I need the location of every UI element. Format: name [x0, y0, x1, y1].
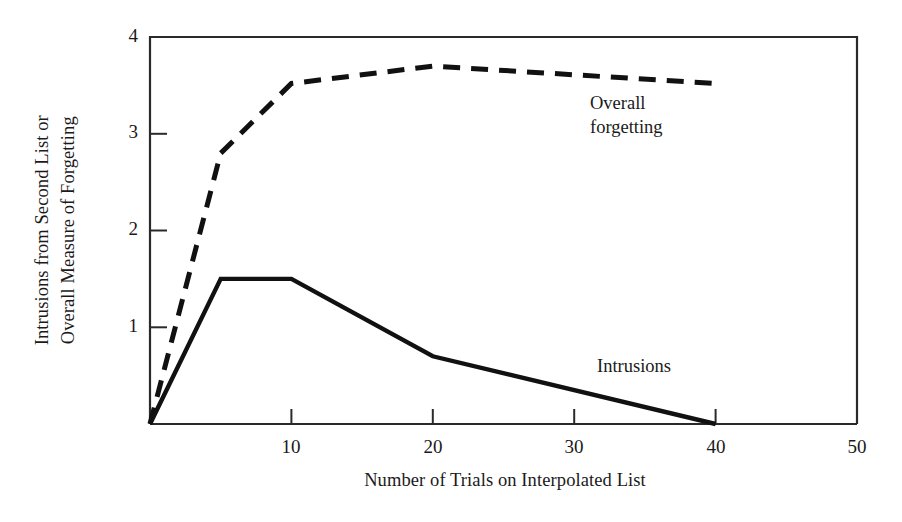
chart-figure: Intrusions from Second List or Overall M… [0, 0, 902, 522]
y-axis-ticks [150, 134, 167, 327]
x-axis-ticks [291, 409, 715, 424]
series-intrusions [150, 279, 716, 424]
y-tick-label-4: 4 [104, 25, 138, 47]
x-axis-title: Number of Trials on Interpolated List [150, 470, 860, 491]
x-tick-label-30: 30 [551, 436, 597, 458]
y-axis-title: Intrusions from Second List or Overall M… [0, 0, 110, 460]
x-tick-label-50: 50 [834, 436, 880, 458]
annotation-overall-forgetting: Overall forgetting [590, 92, 663, 139]
x-tick-label-10: 10 [268, 436, 314, 458]
x-tick-label-20: 20 [410, 436, 456, 458]
y-tick-label-1: 1 [104, 315, 138, 337]
y-tick-label-2: 2 [104, 218, 138, 240]
x-tick-label-40: 40 [693, 436, 739, 458]
y-tick-label-3: 3 [104, 121, 138, 143]
annotation-intrusions: Intrusions [597, 355, 671, 379]
y-axis-title-line1: Intrusions from Second List or [29, 115, 55, 345]
y-axis-title-line2: Overall Measure of Forgetting [55, 115, 81, 345]
plot-frame [150, 37, 857, 424]
